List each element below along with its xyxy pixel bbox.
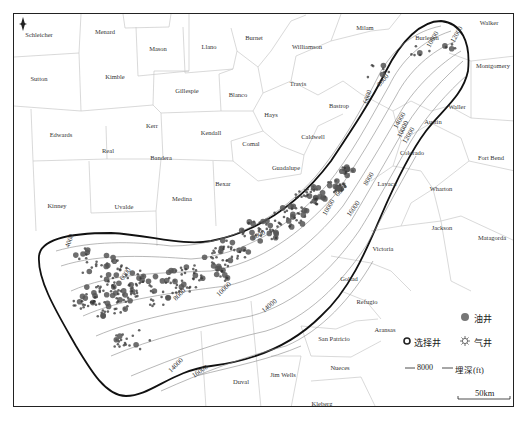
well-marker [239,228,245,234]
well-marker [268,223,274,229]
well-marker [449,46,455,52]
well-marker [110,293,116,299]
well-marker [222,259,225,262]
well-marker [291,208,294,211]
well-marker [273,231,279,237]
well-marker [150,298,153,301]
well-marker [454,47,457,50]
well-marker [320,195,326,201]
well-marker [100,264,103,267]
well-marker [239,251,242,254]
county-label: Comal [242,140,259,147]
well-marker [230,246,233,249]
well-marker [85,253,88,256]
well-marker [100,275,103,278]
well-marker [97,315,100,318]
well-marker [255,234,258,237]
well-marker [123,344,126,347]
well-marker [82,306,85,309]
well-marker [106,272,112,278]
well-marker [225,240,228,243]
well-marker [330,181,333,184]
well-marker [113,286,116,289]
well-marker [113,281,116,284]
well-marker [138,282,141,285]
well-marker [120,339,123,342]
county-label: Menard [95,28,115,35]
well-marker [213,251,216,254]
well-marker [99,290,102,293]
well-marker [415,45,418,48]
well-marker [201,277,204,280]
well-marker [445,46,448,49]
well-marker [114,272,120,278]
well-marker [246,249,252,255]
county-label: Edwards [50,131,73,138]
well-marker [133,342,139,348]
well-marker [419,54,422,57]
contour-label: 14000 [260,297,279,315]
county-label: Gillespie [175,87,198,94]
well-marker [117,289,120,292]
well-marker [106,283,109,286]
well-marker [118,345,121,348]
well-marker [130,270,136,276]
well-marker [142,280,145,283]
well-marker [247,222,250,225]
well-marker [195,286,198,289]
county-label: Milam [356,24,373,31]
well-marker [95,260,98,263]
well-marker [127,298,133,304]
well-marker [141,274,147,280]
well-marker [117,300,120,303]
well-marker [271,238,274,241]
well-marker [215,256,218,259]
well-marker [220,238,226,244]
well-marker [200,274,203,277]
well-marker [195,269,198,272]
well-marker [122,292,128,298]
well-marker [211,261,214,264]
well-marker [128,284,131,287]
well-marker [233,249,236,252]
well-marker [98,303,101,306]
well-marker [301,212,307,218]
well-marker [250,235,256,241]
well-marker [125,301,128,304]
well-marker [313,189,316,192]
well-marker [102,289,105,292]
well-marker [97,285,100,288]
well-marker [336,185,342,191]
well-marker [304,189,307,192]
well-marker [300,206,303,209]
well-marker [98,287,101,290]
well-marker [116,259,119,262]
county-label: Kleberg [312,400,333,407]
well-marker [152,288,158,294]
well-marker [383,71,386,74]
well-marker [211,252,214,255]
well-marker [188,287,191,290]
well-marker [381,63,387,69]
county-label: Bandera [150,154,172,161]
well-marker [260,219,266,225]
county-label: Real [102,147,114,154]
well-marker [288,225,291,228]
county-label: Kimble [105,73,125,80]
well-marker [136,292,139,295]
county-label: Blanco [229,91,247,98]
well-marker [116,281,122,287]
well-marker [175,291,178,294]
county-label: Montgomery [476,62,510,69]
county-label: Schleicher [25,31,52,38]
well-marker [293,216,296,219]
contour-label: 16000 [191,363,210,380]
contour-label: 16000 [345,199,362,218]
county-label: Austin [424,118,441,125]
well-marker [112,277,115,280]
well-marker [267,231,273,237]
well-marker [428,50,431,53]
well-marker [219,275,222,278]
north-arrow-icon [19,17,27,31]
well-marker [127,277,130,280]
